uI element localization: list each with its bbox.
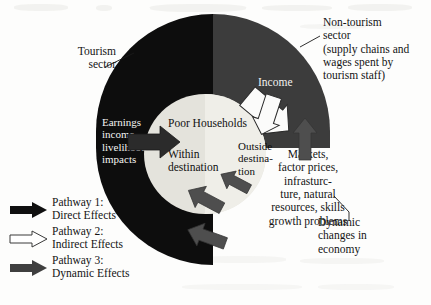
- dynamic-in-arrow-2: [183, 180, 228, 219]
- outline-white-arrow-icon: [8, 230, 50, 248]
- dynamic-up-arrow: [293, 118, 317, 160]
- legend-item-pathway-2: Pathway 2: Indirect Effects: [6, 227, 166, 256]
- solid-black-arrow-icon: [8, 201, 50, 219]
- legend-label-pathway-1: Pathway 1: Direct Effects: [52, 196, 116, 222]
- dynamic-in-arrow-3: [184, 218, 230, 254]
- direct-effect-arrow: [128, 126, 180, 158]
- legend-item-pathway-1: Pathway 1: Direct Effects: [6, 198, 166, 227]
- legend-label-pathway-3: Pathway 3: Dynamic Effects: [52, 254, 129, 280]
- pathway-legend: Pathway 1: Direct Effects Pathway 2: Ind…: [6, 198, 166, 285]
- legend-item-pathway-3: Pathway 3: Dynamic Effects: [6, 256, 166, 285]
- figure-canvas: Earnings income, livelihood impacts Poor…: [0, 0, 431, 305]
- solid-gray-arrow-icon: [8, 259, 50, 277]
- dynamic-in-arrow-1: [216, 165, 254, 198]
- legend-label-pathway-2: Pathway 2: Indirect Effects: [52, 225, 123, 251]
